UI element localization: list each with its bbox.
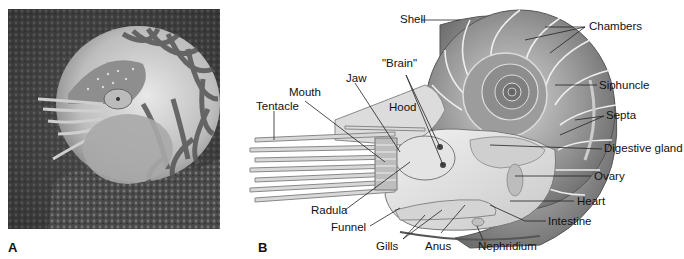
label-heart: Heart: [577, 196, 605, 208]
label-intestine: Intestine: [548, 216, 591, 228]
label-shell: Shell: [400, 14, 426, 26]
label-siphuncle: Siphuncle: [599, 80, 650, 92]
panel-b-letter: B: [258, 240, 267, 255]
label-mouth: Mouth: [289, 87, 321, 99]
label-funnel: Funnel: [331, 222, 366, 234]
label-ovary: Ovary: [594, 171, 625, 183]
label-digestive-gland: Digestive gland: [604, 143, 683, 155]
label-radula: Radula: [311, 205, 347, 217]
label-jaw: Jaw: [346, 73, 366, 85]
label-nephridium: Nephridium: [478, 241, 537, 253]
label-septa: Septa: [606, 110, 636, 122]
label-chambers: Chambers: [589, 21, 642, 33]
label-anus: Anus: [425, 241, 451, 253]
label-brain: "Brain": [382, 58, 417, 70]
label-gills: Gills: [376, 241, 398, 253]
label-tentacle: Tentacle: [256, 101, 299, 113]
label-hood: Hood: [389, 102, 417, 114]
